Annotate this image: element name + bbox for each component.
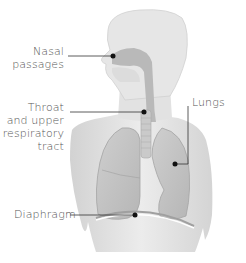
- label-throat: Throat and upper respiratory tract: [0, 101, 64, 153]
- label-lungs: Lungs: [192, 96, 225, 109]
- label-diaphragm: Diaphragm: [14, 208, 76, 221]
- label-nasal-passages: Nasal passages: [0, 45, 64, 71]
- trachea: [141, 110, 151, 158]
